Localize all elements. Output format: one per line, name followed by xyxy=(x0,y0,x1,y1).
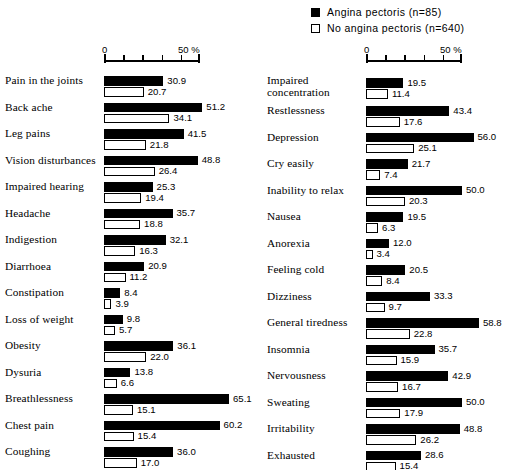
bar-angina: 58.8 xyxy=(366,318,516,328)
bar-value-label: 26.4 xyxy=(159,165,178,176)
bar-value-label: 11.2 xyxy=(130,271,148,282)
bar-angina: 41.5 xyxy=(104,129,254,139)
bar-value-label: 18.8 xyxy=(144,218,163,229)
bar-angina: 60.2 xyxy=(104,421,254,431)
category-label: Obesity xyxy=(5,340,101,352)
bar-group: 36.017.0 xyxy=(104,447,254,469)
bar-group: 33.39.7 xyxy=(366,292,516,314)
x-axis-line xyxy=(366,60,462,62)
x-axis-tick xyxy=(460,54,462,63)
bar-fill xyxy=(104,103,202,113)
bar-group: 65.115.1 xyxy=(104,394,254,416)
bar-value-label: 30.9 xyxy=(167,75,186,86)
bar-row: Dizziness33.39.7 xyxy=(262,290,521,317)
bar-no-angina: 25.1 xyxy=(366,144,516,154)
x-axis-tick xyxy=(366,54,368,63)
x-axis-tick xyxy=(385,55,387,62)
x-axis-tick xyxy=(123,55,125,62)
bar-no-angina: 26.2 xyxy=(366,435,516,445)
x-axis-label-max: 50 % xyxy=(440,44,462,55)
bar-fill xyxy=(366,382,398,392)
category-label: Impaired hearing xyxy=(5,181,101,193)
bar-value-label: 25.1 xyxy=(418,142,437,153)
bar-value-label: 28.6 xyxy=(425,449,444,460)
bar-row: Exhausted28.615.4 xyxy=(262,449,521,470)
bar-fill xyxy=(104,220,140,230)
bar-no-angina: 17.0 xyxy=(104,458,254,468)
bar-fill xyxy=(366,371,448,381)
category-label: Cry easily xyxy=(267,158,363,170)
bar-row: Breathlessness65.115.1 xyxy=(0,392,260,419)
bar-fill xyxy=(366,78,403,88)
bar-angina: 50.0 xyxy=(366,398,516,408)
bar-value-label: 22.0 xyxy=(150,351,169,362)
bar-fill xyxy=(366,117,400,127)
bar-no-angina: 7.4 xyxy=(366,170,516,180)
bar-fill xyxy=(366,239,389,249)
bar-fill xyxy=(104,394,229,404)
bar-row: Impaired hearing25.319.4 xyxy=(0,180,260,207)
bar-value-label: 51.2 xyxy=(206,101,225,112)
x-axis-tick xyxy=(142,55,144,62)
chart-panel-right: 0 50 % Impaired concentration19.511.4Res… xyxy=(262,0,521,470)
bar-value-label: 17.9 xyxy=(404,407,423,418)
x-axis-tick xyxy=(181,55,183,62)
bar-angina: 35.7 xyxy=(104,209,254,219)
bar-fill xyxy=(104,76,163,86)
bar-fill xyxy=(366,170,380,180)
category-label: Constipation xyxy=(5,287,101,299)
bar-row: Sweating50.017.9 xyxy=(262,396,521,423)
bar-angina: 50.0 xyxy=(366,186,516,196)
bar-value-label: 35.7 xyxy=(177,207,196,218)
bar-fill xyxy=(104,421,220,431)
bar-value-label: 19.5 xyxy=(407,77,426,88)
bar-no-angina: 18.8 xyxy=(104,220,254,230)
bar-no-angina: 15.9 xyxy=(366,356,516,366)
bar-value-label: 8.4 xyxy=(386,275,399,286)
category-label: Exhausted xyxy=(267,450,363,462)
bar-fill xyxy=(366,345,435,355)
bar-fill xyxy=(104,140,146,150)
bar-no-angina: 22.0 xyxy=(104,352,254,362)
bar-group: 13.86.6 xyxy=(104,368,254,390)
bar-value-label: 20.7 xyxy=(148,86,167,97)
bar-row: Obesity36.122.0 xyxy=(0,339,260,366)
x-axis-left: 0 50 % xyxy=(104,44,200,72)
bar-fill xyxy=(366,356,397,366)
bar-value-label: 3.9 xyxy=(115,298,128,309)
bar-value-label: 15.9 xyxy=(401,354,420,365)
bar-value-label: 20.5 xyxy=(409,264,428,275)
bar-fill xyxy=(366,292,430,302)
bar-no-angina: 20.7 xyxy=(104,87,254,97)
bar-value-label: 35.7 xyxy=(439,343,458,354)
bar-row: Back ache51.234.1 xyxy=(0,101,260,128)
bar-group: 48.826.2 xyxy=(366,424,516,446)
bar-row: Diarrhoea20.911.2 xyxy=(0,260,260,287)
bar-group: 36.122.0 xyxy=(104,341,254,363)
bar-value-label: 50.0 xyxy=(466,396,485,407)
bar-value-label: 16.3 xyxy=(139,245,158,256)
category-label: Irritability xyxy=(267,423,363,435)
bar-angina: 35.7 xyxy=(366,345,516,355)
bar-angina: 20.9 xyxy=(104,262,254,272)
category-label: Diarrhoea xyxy=(5,261,101,273)
x-axis-tick xyxy=(162,55,164,62)
bar-row: Leg pains41.521.8 xyxy=(0,127,260,154)
bar-row: Chest pain60.215.4 xyxy=(0,419,260,446)
bar-value-label: 16.7 xyxy=(402,381,421,392)
bar-group: 8.43.9 xyxy=(104,288,254,310)
category-label: Pain in the joints xyxy=(5,75,101,87)
bar-angina: 20.5 xyxy=(366,265,516,275)
bar-fill xyxy=(366,133,474,143)
x-axis-tick-labels: 0 50 % xyxy=(366,44,462,57)
bar-angina: 42.9 xyxy=(366,371,516,381)
bar-fill xyxy=(104,299,111,309)
bar-value-label: 60.2 xyxy=(224,419,243,430)
bar-group: 35.715.9 xyxy=(366,345,516,367)
bar-row: Feeling cold20.58.4 xyxy=(262,263,521,290)
category-label: Inability to relax xyxy=(267,185,363,197)
bar-value-label: 32.1 xyxy=(170,234,189,245)
bar-group: 56.025.1 xyxy=(366,133,516,155)
x-axis-tick xyxy=(404,55,406,62)
bar-group: 42.916.7 xyxy=(366,371,516,393)
